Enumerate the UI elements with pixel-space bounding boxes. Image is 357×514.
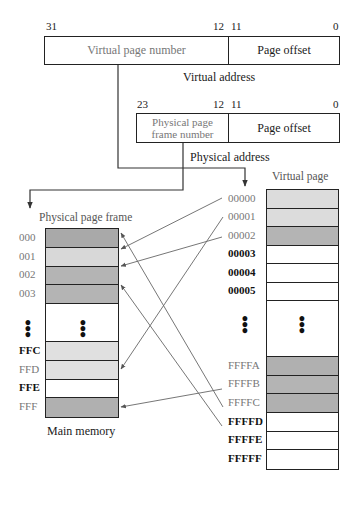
page-label-00005: 00005 <box>228 284 256 296</box>
physical-page-frame-title: Physical page frame <box>39 211 132 223</box>
pa-page-offset-field: Page offset <box>229 114 339 142</box>
page-label-00004: 00004 <box>228 266 256 278</box>
frame-003 <box>46 285 118 304</box>
page-label-00003: 00003 <box>228 247 256 259</box>
frame-FFD <box>46 361 118 380</box>
page-FFFFA <box>267 357 338 376</box>
frame-label-001: 001 <box>19 250 36 262</box>
frame-label-000: 000 <box>19 231 36 243</box>
physical-address-box: Physical page frame number Page offset <box>136 113 340 143</box>
page-label-FFFFE: FFFFE <box>228 433 262 445</box>
main-memory-caption: Main memory <box>47 424 115 439</box>
map-FFFFB-to-000 <box>121 233 223 407</box>
page-label-FFFFA: FFFFA <box>228 359 260 371</box>
frame-002 <box>46 267 118 285</box>
frame-000 <box>46 229 118 248</box>
page-FFFFF <box>267 450 338 469</box>
frame-FFF <box>46 398 118 417</box>
page-label-FFFFF: FFFFF <box>228 452 262 464</box>
frame-label-FFF: FFF <box>19 400 37 412</box>
pa-bit-0: 0 <box>333 98 339 110</box>
frame-label-FFE: FFE <box>19 381 40 393</box>
page-label-00001: 00001 <box>228 210 256 222</box>
page-label-FFFFB: FFFFB <box>228 377 260 389</box>
ppfn-wire <box>30 143 183 208</box>
page-label-ellipsis-dots: ••• <box>240 316 250 334</box>
ppfn-line2: frame number <box>152 128 214 140</box>
page-FFFFC <box>267 394 338 413</box>
virtual-address-box: Virtual page number Page offset <box>44 36 340 65</box>
page-FFFFE <box>267 432 338 450</box>
page-label-00002: 00002 <box>228 229 256 241</box>
page-FFFFD <box>267 413 338 432</box>
frame-label-002: 002 <box>19 268 36 280</box>
page-label-00000: 00000 <box>228 192 256 204</box>
va-page-offset-field: Page offset <box>229 37 339 64</box>
physical-address-caption: Physical address <box>190 150 270 165</box>
pa-bit-11: 11 <box>231 98 242 110</box>
va-bit-11: 11 <box>231 20 242 32</box>
physical-page-frame-number-field: Physical page frame number <box>137 114 229 142</box>
page-ellipsis-dots: ••• <box>297 316 307 334</box>
page-00003 <box>267 246 338 264</box>
map-00002-to-002 <box>121 237 222 266</box>
map-FFFFA-to-FFF <box>121 389 222 407</box>
frame-FFE <box>46 380 118 398</box>
page-00001 <box>267 209 338 227</box>
va-bit-12: 12 <box>213 20 224 32</box>
pa-bit-23: 23 <box>137 98 148 110</box>
va-bit-31: 31 <box>46 20 57 32</box>
page-FFFFB <box>267 376 338 394</box>
frame-label-003: 003 <box>19 287 36 299</box>
pa-bit-12: 12 <box>213 98 224 110</box>
page-00004 <box>267 264 338 283</box>
map-FFFFC-to-003 <box>121 285 222 426</box>
page-label-FFFFD: FFFFD <box>228 415 263 427</box>
page-00005 <box>267 283 338 301</box>
virtual-page-number-field: Virtual page number <box>45 37 229 64</box>
page-00002 <box>267 227 338 246</box>
frame-ellipsis-dots: ••• <box>78 320 88 338</box>
frame-label-ellipsis-dots: ••• <box>23 320 33 338</box>
map-00000-to-001 <box>121 198 222 249</box>
frame-label-FFC: FFC <box>19 344 40 356</box>
page-label-FFFFC: FFFFC <box>228 396 260 408</box>
frame-001 <box>46 248 118 267</box>
va-bit-0: 0 <box>333 20 339 32</box>
ppfn-line1: Physical page <box>152 116 213 128</box>
page-00000 <box>267 190 338 209</box>
virtual-address-caption: Virtual address <box>183 70 255 85</box>
map-00001-to-FFD <box>121 217 223 369</box>
frame-label-FFD: FFD <box>19 363 39 375</box>
virtual-page-title: Virtual page <box>272 170 328 182</box>
